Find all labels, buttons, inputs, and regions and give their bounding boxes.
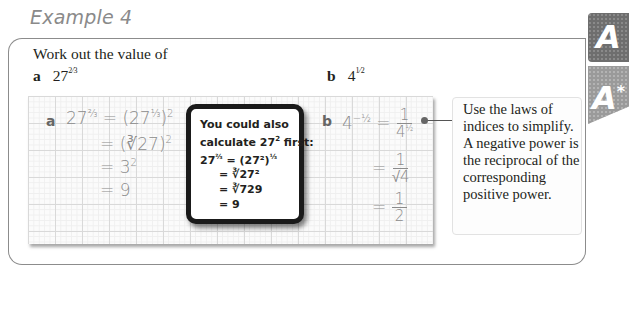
solution-b-line-3: = 12 [372,192,407,224]
callout-line-6: = 9 [200,197,299,212]
grade-badge-a: A [588,13,629,62]
note-connector-dot [421,117,428,124]
solution-a-line-3: = 32 [100,157,137,177]
solution-a-line-1: 27⅔ = (27⅓)2 [66,108,173,128]
callout-box: You could also calculate 272 first: 27⅔ … [186,104,304,224]
part-b-label: b [327,67,336,84]
question-prompt: Work out the value of [33,45,168,63]
question-part-a: a272⁄3 [33,67,78,85]
solution-b-line-1: 4−½ = 14½ [342,108,413,140]
callout-line-4: = ∛27² [200,167,299,182]
grade-badge-a-star: A* [588,66,629,124]
solution-a-line-2: = (∛27)2 [100,134,172,154]
solution-b-label: b [322,113,332,129]
part-a-exponent: 2⁄3 [68,66,77,75]
part-b-exponent: 1⁄2 [355,66,364,75]
solution-b-line-2: = 1√4 [372,153,409,185]
callout-line-1: You could also [200,117,299,132]
hint-note: Use the laws of indices to simplify. A n… [452,97,582,235]
callout-line-5: = ∛729 [200,182,299,197]
callout-line-2: calculate 272 first: [200,132,299,150]
part-a-base: 27 [53,67,69,84]
callout-line-3: 27⅔ = (27²)⅓ [200,150,299,168]
solution-a-line-4: = 9 [100,180,130,200]
example-title: Example 4 [30,6,132,28]
question-part-b: b41⁄2 [327,67,365,85]
solution-a-label: a [46,113,55,129]
part-a-label: a [33,67,41,84]
